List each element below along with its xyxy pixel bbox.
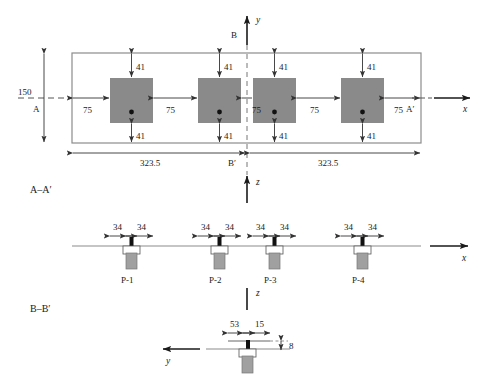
pile-3-name: P-3 — [264, 275, 277, 285]
plan-spacing-label-1: 75 — [83, 105, 93, 115]
section-bb-height-dim-label: 8 — [289, 341, 294, 351]
section-aa-pile-3: 34 34 P-3 — [253, 222, 296, 285]
plan-pile-cap-1 — [110, 78, 153, 123]
plan-section-aprime-label: A′ — [406, 104, 414, 114]
plan-spacing-label-2: 75 — [166, 105, 176, 115]
plan-y-axis-label: y — [255, 15, 261, 25]
section-aa-x-axis-label: x — [461, 253, 467, 263]
section-aa-pile-4: 34 34 P-4 — [341, 222, 384, 285]
section-aa-view: A–A′ z x 34 34 P-1 34 34 P — [30, 176, 468, 285]
plan-offset-top-label-3: 41 — [279, 62, 288, 72]
pile-2-right-dim-label: 34 — [225, 222, 235, 232]
plan-offset-top-dims: 41 41 41 41 — [132, 54, 377, 77]
pile-2-name: P-2 — [209, 275, 222, 285]
plan-view: y B B′ x A A′ 150 — [18, 15, 470, 175]
plan-pile-center-3 — [272, 110, 277, 115]
section-bb-pile-shaft — [242, 356, 253, 373]
section-bb-y-axis-label: y — [165, 356, 171, 366]
pile-1-right-dim-label: 34 — [137, 222, 147, 232]
plan-pile-cap-2 — [198, 78, 241, 123]
section-aa-view-label: A–A′ — [30, 184, 52, 195]
section-bb-view-label: B–B′ — [30, 303, 51, 314]
pile-3-right-dim-label: 34 — [280, 222, 290, 232]
plan-section-b-label: B — [231, 30, 237, 40]
pile-4-name: P-4 — [352, 275, 365, 285]
plan-width-dim-label: 150 — [18, 87, 32, 97]
plan-offset-bottom-label-1: 41 — [136, 131, 145, 141]
pile-4-right-dim-label: 34 — [368, 222, 378, 232]
section-bb-pile-stem — [246, 340, 250, 350]
plan-spacing-label-3: 75 — [252, 105, 262, 115]
plan-offset-top-label-4: 41 — [367, 62, 376, 72]
pile-4-shaft — [357, 253, 368, 269]
plan-overall-label-left: 323.5 — [140, 158, 161, 168]
pile-1-name: P-1 — [121, 275, 134, 285]
section-bb-view: B–B′ z y 53 15 8 — [30, 288, 294, 373]
pile-4-stem-top — [361, 237, 365, 247]
plan-offset-top-label-2: 41 — [224, 62, 233, 72]
plan-offset-top-label-1: 41 — [136, 62, 145, 72]
pile-1-shaft — [126, 253, 137, 269]
pile-2-stem-top — [218, 237, 222, 247]
section-bb-z-axis-label: z — [255, 288, 260, 298]
section-bb-left-dim-label: 53 — [230, 319, 240, 329]
plan-pile-center-2 — [217, 110, 222, 115]
plan-overall-label-right: 323.5 — [318, 158, 339, 168]
plan-offset-bottom-dims: 41 41 41 41 — [132, 124, 377, 142]
pile-2-shaft — [214, 253, 225, 269]
pile-1-stem-top — [130, 237, 134, 247]
plan-offset-bottom-label-3: 41 — [279, 131, 288, 141]
plan-section-bprime-label: B′ — [228, 158, 236, 168]
plan-spacing-label-5: 75 — [394, 105, 404, 115]
plan-offset-bottom-label-4: 41 — [367, 131, 376, 141]
plan-pile-cap-3 — [253, 78, 296, 123]
plan-section-a-label: A — [33, 104, 40, 114]
plan-spacing-label-4: 75 — [310, 105, 320, 115]
plan-pile-center-1 — [129, 110, 134, 115]
pile-1-left-dim-label: 34 — [113, 222, 123, 232]
plan-offset-bottom-label-2: 41 — [224, 131, 233, 141]
section-bb-right-dim-label: 15 — [255, 319, 265, 329]
engineering-drawing: y B B′ x A A′ 150 — [0, 0, 490, 380]
pile-3-stem-top — [273, 237, 277, 247]
pile-3-left-dim-label: 34 — [256, 222, 266, 232]
plan-pile-cap-4 — [341, 78, 384, 123]
plan-pile-center-4 — [360, 110, 365, 115]
section-aa-z-axis-label: z — [255, 177, 260, 187]
plan-x-axis-label: x — [462, 104, 468, 114]
section-aa-pile-2: 34 34 P-2 — [198, 222, 241, 285]
pile-2-left-dim-label: 34 — [201, 222, 211, 232]
figure-canvas: y B B′ x A A′ 150 — [0, 0, 490, 380]
pile-4-left-dim-label: 34 — [344, 222, 354, 232]
section-aa-pile-1: 34 34 P-1 — [110, 222, 153, 285]
pile-3-shaft — [269, 253, 280, 269]
